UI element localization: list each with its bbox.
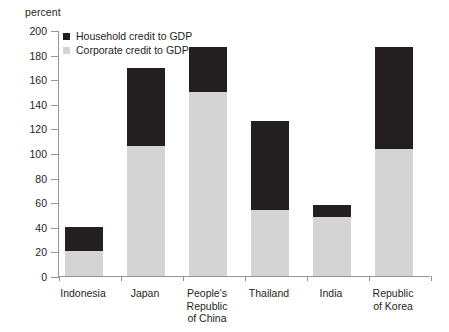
x-axis-tick <box>307 276 308 281</box>
y-axis-tick <box>51 252 59 253</box>
bar-group[interactable] <box>375 30 413 276</box>
x-axis-category-label: Republic of Korea <box>348 287 438 312</box>
household-swatch-icon <box>63 33 70 40</box>
chart-figure: percent 200180160140120100806040200 Indo… <box>0 0 449 332</box>
y-axis-tick-label: 20 <box>35 247 47 258</box>
y-axis-tick <box>51 228 59 229</box>
bar-segment-household[interactable] <box>313 205 351 217</box>
bar-group[interactable] <box>189 30 227 276</box>
bar-group[interactable] <box>313 30 351 276</box>
y-axis-tick-label: 40 <box>35 223 47 234</box>
y-axis-tick-label: 160 <box>29 75 47 86</box>
y-axis-tick <box>51 129 59 130</box>
bar-segment-household[interactable] <box>65 227 103 252</box>
bar-segment-corporate[interactable] <box>375 149 413 276</box>
y-axis-tick <box>51 154 59 155</box>
y-axis-tick-label: 100 <box>29 149 47 160</box>
y-axis-tick-label: 60 <box>35 198 47 209</box>
x-axis-tick <box>121 276 122 281</box>
y-axis-tick <box>51 31 59 32</box>
bar-segment-corporate[interactable] <box>65 251 103 276</box>
y-axis-tick <box>51 277 59 278</box>
x-axis-tick <box>369 276 370 281</box>
bar-segment-household[interactable] <box>127 68 165 145</box>
y-axis-tick <box>51 80 59 81</box>
legend-item-corporate: Corporate credit to GDP <box>63 44 192 56</box>
bar-group[interactable] <box>251 30 289 276</box>
bar-segment-household[interactable] <box>375 47 413 149</box>
bar-segment-corporate[interactable] <box>251 210 289 276</box>
y-axis-tick <box>51 105 59 106</box>
y-axis-tick <box>51 56 59 57</box>
y-axis-tick-label: 180 <box>29 50 47 61</box>
chart-legend: Household credit to GDP Corporate credit… <box>63 30 192 58</box>
plot-area: 200180160140120100806040200 <box>58 31 430 277</box>
bar-segment-corporate[interactable] <box>313 217 351 276</box>
y-axis-tick-label: 80 <box>35 173 47 184</box>
corporate-swatch-icon <box>63 47 70 54</box>
bar-group[interactable] <box>65 30 103 276</box>
y-axis-tick-label: 120 <box>29 124 47 135</box>
bar-segment-household[interactable] <box>189 47 227 91</box>
y-axis-tick <box>51 179 59 180</box>
bar-segment-corporate[interactable] <box>189 92 227 277</box>
legend-label-household: Household credit to GDP <box>76 30 192 42</box>
bar-group[interactable] <box>127 30 165 276</box>
y-axis-unit-label: percent <box>25 6 61 18</box>
bar-segment-corporate[interactable] <box>127 146 165 276</box>
y-axis-tick <box>51 203 59 204</box>
legend-item-household: Household credit to GDP <box>63 30 192 42</box>
y-axis-tick-label: 0 <box>41 272 47 283</box>
x-axis-tick <box>245 276 246 281</box>
bar-segment-household[interactable] <box>251 121 289 210</box>
x-axis-tick <box>183 276 184 281</box>
x-axis-tick <box>59 276 60 281</box>
y-axis-tick-label: 200 <box>29 26 47 37</box>
x-axis-tick <box>431 276 432 281</box>
y-axis-tick-label: 140 <box>29 100 47 111</box>
legend-label-corporate: Corporate credit to GDP <box>76 44 189 56</box>
